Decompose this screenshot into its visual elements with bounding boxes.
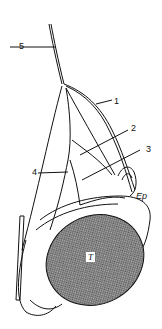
label-5: 5 xyxy=(19,42,24,51)
label-1: 1 xyxy=(114,97,119,106)
label-4: 4 xyxy=(32,168,37,177)
label-epididymis: Ep xyxy=(136,192,147,201)
testis-diagram: 5 1 2 3 4 Ep T xyxy=(0,0,162,329)
label-2: 2 xyxy=(131,124,136,133)
label-testis: T xyxy=(86,252,95,262)
label-3: 3 xyxy=(146,145,151,154)
leader-1 xyxy=(96,100,112,104)
diagram-drawing xyxy=(0,0,162,329)
leader-4 xyxy=(38,172,68,173)
cord-line xyxy=(49,24,62,84)
